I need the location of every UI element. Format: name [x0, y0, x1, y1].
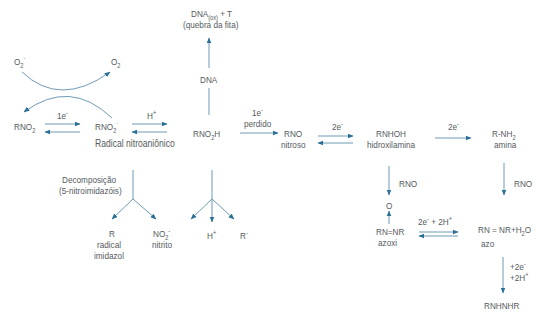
o2-radical-to-o2-arc — [22, 72, 110, 90]
nitrite-label: nitrito — [152, 239, 172, 250]
one-electron-lost-label: 1e- — [252, 107, 263, 118]
rno2-label: RNO2 — [14, 121, 35, 132]
proton-product-label: H+ — [207, 230, 216, 241]
nitrite-formula-label: NO2- — [153, 228, 170, 239]
decomposition-label: Decomposição — [62, 174, 116, 185]
plus-two-protons-label: +2H+ — [510, 272, 528, 283]
amine-formula-label: R-NH2 — [492, 128, 516, 139]
oxygen-atom-label: O — [386, 200, 392, 211]
rno-reactant-label-a: RNO — [399, 178, 417, 189]
nitroanion-radical-label: Radical nitroaniônico — [95, 138, 175, 149]
one-electron-label: 1e- — [57, 110, 68, 121]
rno2-radical-label: RNO2· — [95, 121, 118, 132]
rno2-radical-to-rno2-arc — [24, 96, 112, 118]
r-anion-label: R- — [240, 230, 248, 241]
dna-label: DNA — [200, 74, 217, 85]
arrows-layer — [0, 0, 541, 318]
azoxy-formula-label: RN=NR — [376, 226, 404, 237]
proton-label: H+ — [147, 110, 156, 121]
nitroso-label: nitroso — [281, 139, 306, 150]
two-electron-two-proton-label: 2e- + 2H+ — [418, 216, 452, 227]
oxygen-o2-label: O2 — [111, 56, 120, 67]
rnhoh-label: RNHOH — [376, 128, 406, 139]
two-electron-label-b: 2e- — [448, 121, 459, 132]
two-electron-label-a: 2e- — [332, 121, 343, 132]
plus-two-electrons-label: +2e- — [510, 261, 526, 272]
azo-formula-label: RN = NR+H2O — [478, 224, 531, 235]
lost-label: perdido — [244, 118, 271, 129]
nitroimidazoles-label: (5-nitroimidazóis) — [59, 185, 122, 196]
azo-label: azo — [481, 238, 494, 249]
hydroxylamine-label: hidroxilamina — [367, 139, 415, 150]
rno-label: RNO — [284, 128, 302, 139]
strand-break-label: (quebra da fita) — [183, 19, 238, 30]
rno-reactant-label-b: RNO — [514, 178, 532, 189]
rno2h-label: RNO2H — [193, 128, 220, 139]
imidazole-label: imidazol — [94, 250, 124, 261]
nitro-reduction-diagram: DNA(ox) + T (quebra da fita) DNA O2· O2 … — [0, 0, 541, 318]
radical-label: radical — [97, 239, 121, 250]
azoxy-label: azoxi — [378, 237, 397, 248]
r-label: R — [109, 228, 115, 239]
amine-label: amina — [494, 139, 516, 150]
dna-oxidized-label: DNA(ox) + T — [191, 8, 232, 19]
superoxide-label: O2· — [14, 56, 25, 67]
hydrazo-label: RNHNHR — [484, 300, 519, 311]
